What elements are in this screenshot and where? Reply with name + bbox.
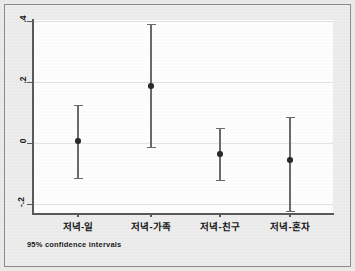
x-tick-mark xyxy=(219,213,221,217)
x-tick-mark xyxy=(77,213,79,217)
error-bar-cap-lower xyxy=(74,178,83,179)
confidence-interval-chart: .4.20-.2 저녁-일저녁-가족저녁-친구저녁-혼자 95% confide… xyxy=(0,0,355,271)
y-axis-line xyxy=(32,19,34,214)
x-tick-mark xyxy=(289,213,291,217)
error-bar-cap-upper xyxy=(147,24,156,25)
y-tick-label: -.2 xyxy=(0,197,26,207)
error-bar-cap-lower xyxy=(216,180,225,181)
error-bar-cap-upper xyxy=(216,128,225,129)
y-tick-label: .4 xyxy=(0,14,26,24)
error-bar-cap-upper xyxy=(74,105,83,106)
mean-point xyxy=(75,138,81,144)
y-tick-label: .2 xyxy=(0,75,26,85)
error-bar-whisker xyxy=(289,117,290,211)
mean-point xyxy=(287,157,293,163)
x-tick-mark xyxy=(150,213,152,217)
mean-point xyxy=(148,83,154,89)
gridline xyxy=(33,204,333,205)
gridline xyxy=(33,21,333,22)
y-tick-label: 0 xyxy=(0,136,26,146)
chart-caption: 95% confidence intervals xyxy=(27,240,121,249)
x-tick-label-3: 저녁-혼자 xyxy=(245,219,335,233)
error-bar-cap-upper xyxy=(286,117,295,118)
mean-point xyxy=(217,151,223,157)
gridline xyxy=(33,82,333,83)
error-bar-cap-lower xyxy=(147,147,156,148)
